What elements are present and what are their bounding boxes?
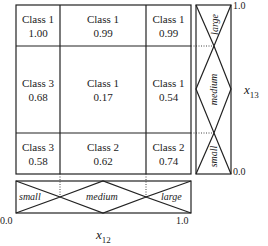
cell-class: Class 2 <box>152 140 184 154</box>
x-axis-sub: 12 <box>102 235 111 245</box>
cell-r2-c3: Class 10.54 <box>146 46 191 133</box>
cell-value: 0.99 <box>93 26 112 40</box>
cell-value: 0.58 <box>28 154 47 168</box>
cell-value: 0.74 <box>159 154 178 168</box>
cell-value: 1.00 <box>28 26 47 40</box>
cell-value: 0.62 <box>93 154 112 168</box>
cell-r1-c2: Class 10.99 <box>60 5 146 46</box>
cell-class: Class 1 <box>152 76 184 90</box>
y-set-medium-label: medium <box>209 73 220 105</box>
cell-r2-c2: Class 10.17 <box>60 46 146 133</box>
cell-class: Class 2 <box>87 140 119 154</box>
cell-class: Class 1 <box>87 12 119 26</box>
cell-class: Class 1 <box>22 12 54 26</box>
cell-r3-c2: Class 20.62 <box>60 133 146 174</box>
cell-value: 0.99 <box>159 26 178 40</box>
y-min-label: 0.0 <box>233 166 246 177</box>
x-set-small: small <box>19 191 41 202</box>
cell-r1-c3: Class 10.99 <box>146 5 191 46</box>
cell-value: 0.17 <box>93 90 112 104</box>
y-set-small-label: small <box>209 145 220 167</box>
cell-class: Class 1 <box>152 12 184 26</box>
y-set-small: small <box>207 139 221 173</box>
y-set-medium: medium <box>207 64 221 114</box>
y-axis-sub: 13 <box>250 90 259 100</box>
x-set-medium: medium <box>86 191 118 202</box>
y-set-large: large <box>207 7 221 41</box>
cell-class: Class 1 <box>87 76 119 90</box>
cell-r3-c1: Class 30.58 <box>16 133 60 174</box>
cell-r3-c3: Class 20.74 <box>146 133 191 174</box>
cell-class: Class 3 <box>22 76 54 90</box>
y-max-label: 1.0 <box>233 0 246 11</box>
x-set-large: large <box>161 191 182 202</box>
y-axis-title: x13 <box>244 82 259 100</box>
x-max-label: 1.0 <box>176 215 189 226</box>
cell-value: 0.54 <box>159 90 178 104</box>
cell-r1-c1: Class 11.00 <box>16 5 60 46</box>
cell-r2-c1: Class 30.68 <box>16 46 60 133</box>
x-axis-title: x12 <box>96 227 111 245</box>
cell-value: 0.68 <box>28 90 47 104</box>
x-min-label: 0.0 <box>0 215 13 226</box>
cell-class: Class 3 <box>22 140 54 154</box>
y-set-large-label: large <box>209 14 220 35</box>
